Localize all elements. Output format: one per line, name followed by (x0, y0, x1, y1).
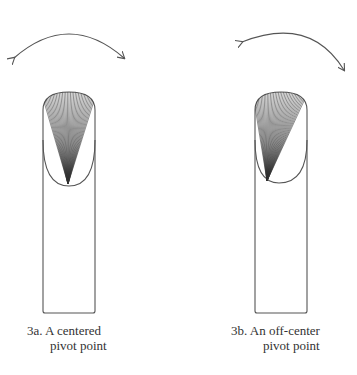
figure-3a-reed (14, 34, 124, 313)
caption-3a: 3a. A centered pivot point (27, 323, 107, 353)
caption-3a-line1: 3a. A centered (27, 323, 101, 338)
reed-diagram (0, 0, 357, 375)
caption-3b-line1: 3b. An off-center (231, 323, 320, 338)
fan-lines-3b (252, 88, 310, 181)
reed-outline-3b (255, 92, 307, 313)
swing-arrow-3a (14, 34, 124, 58)
fan-lines-3a (40, 88, 98, 184)
figure-3b-reed (242, 33, 344, 313)
caption-3b: 3b. An off-center pivot point (231, 323, 320, 353)
caption-3a-line2: pivot point (27, 338, 107, 353)
caption-3b-line2: pivot point (231, 338, 320, 353)
swing-arrow-3b (242, 33, 344, 70)
